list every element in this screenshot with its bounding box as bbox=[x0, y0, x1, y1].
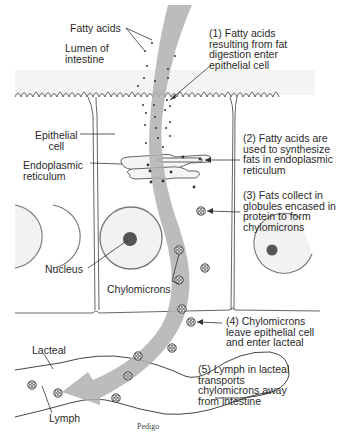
illustrator-credit: Pedigo bbox=[137, 422, 159, 431]
step-3: (3) Fats collect in globules encased in … bbox=[243, 190, 336, 232]
label-fatty-acids: Fatty acids bbox=[70, 23, 121, 34]
nucleus-left bbox=[15, 205, 42, 268]
label-lumen: Lumen of intestine bbox=[65, 43, 109, 64]
label-chylomicrons: Chylomicrons bbox=[107, 284, 171, 295]
step-4: (4) Chylomicrons leave epithelial cell a… bbox=[226, 316, 314, 348]
step-2: (2) Fatty acids are used to synthesize f… bbox=[243, 133, 333, 175]
label-epithelial-cell: Epithelial cell bbox=[35, 130, 78, 151]
endoplasmic-reticulum bbox=[121, 154, 211, 179]
label-lymph: Lymph bbox=[49, 413, 80, 424]
label-nucleus: Nucleus bbox=[45, 264, 83, 275]
step-1: (1) Fatty acids resulting from fat diges… bbox=[209, 28, 287, 70]
nucleolus-right bbox=[267, 245, 278, 256]
nucleolus-center bbox=[123, 232, 137, 246]
label-lacteal: Lacteal bbox=[32, 345, 66, 356]
step-5: (5) Lymph in lacteal transports chylomic… bbox=[198, 364, 289, 406]
label-endoplasmic-reticulum: Endoplasmic reticulum bbox=[23, 160, 83, 181]
